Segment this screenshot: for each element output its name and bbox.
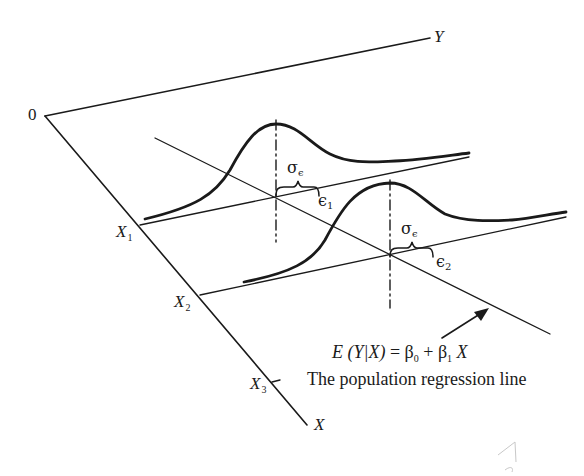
formula-arrow <box>442 312 483 338</box>
regression-formula: E (Y|X) = β0 + β1 X <box>332 342 468 364</box>
x3-tick <box>272 380 280 382</box>
caption: The population regression line <box>307 369 526 390</box>
arrowhead-icon <box>474 308 489 321</box>
x-axis-label: X <box>314 415 324 435</box>
pencil-mark <box>498 442 516 472</box>
x-axis <box>45 116 307 425</box>
sigma-label-2: σϵ <box>401 219 418 239</box>
regression-diagram <box>0 0 584 476</box>
origin-label: 0 <box>28 105 37 125</box>
y-axis <box>45 38 430 116</box>
x1-label: X1 <box>116 222 132 243</box>
x2-label: X2 <box>174 292 190 313</box>
distribution-curve-1 <box>145 124 469 219</box>
sigma-brace-1 <box>276 181 319 196</box>
epsilon-label-2: ϵ2 <box>436 252 451 272</box>
y-axis-label: Y <box>434 27 443 47</box>
x3-label: X3 <box>250 374 266 395</box>
x2-line <box>200 217 566 295</box>
x1-line <box>140 157 469 225</box>
sigma-label-1: σϵ <box>287 158 304 178</box>
regression-line <box>155 138 550 334</box>
epsilon-label-1: ϵ1 <box>318 191 333 211</box>
